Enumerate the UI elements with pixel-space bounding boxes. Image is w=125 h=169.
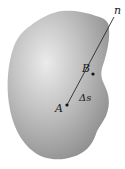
label-b: B	[81, 62, 90, 75]
label-n: n	[114, 4, 121, 17]
label-delta-s: Δs	[78, 92, 91, 103]
label-a: A	[54, 102, 63, 115]
diagram-canvas: n B A Δs	[0, 0, 125, 169]
deformable-body	[8, 11, 110, 160]
point-b-dot	[91, 72, 94, 75]
point-a-dot	[65, 103, 68, 106]
